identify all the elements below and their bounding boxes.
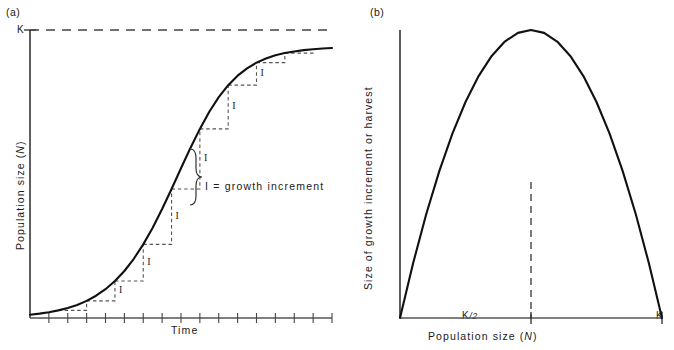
- panel-b: (b) Size of growth increment or harvest …: [340, 0, 674, 350]
- increment-step-label: I: [204, 152, 207, 163]
- increment-step-label: I: [261, 67, 264, 78]
- increment-step-label: I: [147, 256, 150, 267]
- yield-parabola-curve: [400, 30, 662, 318]
- figure-container: (a) Population size (N) K Time I = growt…: [0, 0, 674, 350]
- increment-step-label: I: [119, 284, 122, 295]
- growth-increment-staircase: [58, 49, 313, 310]
- increment-step-label: I: [176, 210, 179, 221]
- panel-a: (a) Population size (N) K Time I = growt…: [0, 0, 340, 350]
- panel-a-plot: [0, 0, 340, 350]
- increment-step-label: I: [232, 100, 235, 111]
- logistic-growth-curve: [30, 48, 332, 315]
- panel-b-plot: [340, 0, 674, 350]
